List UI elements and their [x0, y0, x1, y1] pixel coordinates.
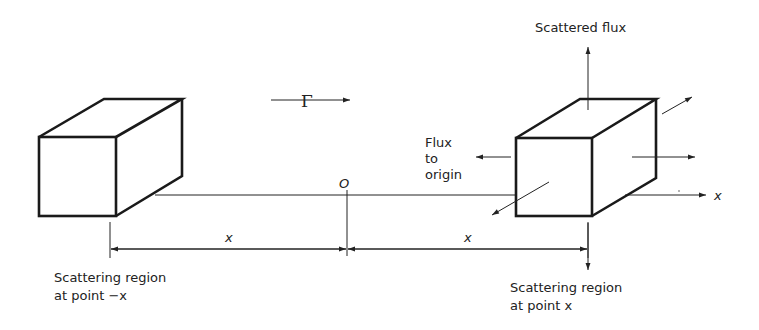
- scattered-flux-label: Scattered flux: [535, 20, 626, 35]
- left-distance-label: x: [224, 230, 233, 245]
- left-region-label-line-2: at point −x: [54, 288, 127, 303]
- speck: [678, 190, 680, 192]
- left-region-label-line-1: Scattering region: [54, 270, 166, 285]
- flux-to-origin-line-1: Flux: [425, 135, 452, 150]
- scattering-diagram: x Γ O x x Scattered flux Flux to origin …: [0, 0, 759, 330]
- right-region-label-line-1: Scattering region: [510, 280, 622, 295]
- left-scattering-box: [39, 99, 182, 216]
- flux-to-origin-line-3: origin: [425, 167, 462, 182]
- scattered-flux-back-arrow: [662, 97, 692, 114]
- left-box-top-face: [39, 99, 182, 137]
- right-box-top-face: [516, 99, 656, 138]
- scattered-flux-front-arrow: [492, 182, 549, 215]
- right-box-front-face: [516, 138, 592, 216]
- x-axis-label: x: [713, 188, 722, 203]
- flux-to-origin-line-2: to: [425, 151, 438, 166]
- right-distance-label: x: [463, 230, 472, 245]
- origin-label: O: [339, 176, 349, 191]
- right-region-label-line-2: at point x: [510, 298, 572, 313]
- left-box-front-face: [39, 137, 116, 216]
- gamma-symbol: Γ: [301, 91, 313, 111]
